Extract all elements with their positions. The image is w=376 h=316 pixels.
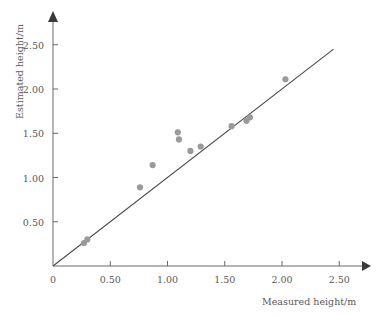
data-point — [229, 123, 235, 129]
data-point — [84, 236, 90, 242]
y-axis-arrow-icon — [48, 11, 58, 22]
plot-canvas — [0, 0, 376, 316]
x-axis-arrow-icon — [362, 261, 371, 271]
data-point — [150, 162, 156, 168]
y-axis-ticks — [53, 45, 58, 222]
y-tick-label: 1.00 — [0, 172, 44, 183]
data-point — [187, 148, 193, 154]
data-point — [247, 114, 253, 120]
reference-line — [53, 49, 334, 266]
data-point — [198, 143, 204, 149]
y-tick-label: 0.50 — [0, 216, 44, 227]
x-tick-label: 1.00 — [157, 274, 178, 285]
x-tick-label: 2.50 — [329, 274, 350, 285]
x-tick-label: 0.50 — [100, 274, 121, 285]
x-axis-ticks — [110, 261, 339, 266]
data-point — [175, 129, 181, 135]
x-tick-label: 0 — [50, 274, 56, 285]
identity-line — [53, 49, 334, 266]
y-axis-title: Estimated height/m — [14, 12, 25, 132]
scatter-plot: 00.501.001.502.002.50 0.501.001.502.002.… — [0, 0, 376, 316]
x-tick-label: 2.00 — [271, 274, 292, 285]
data-point — [282, 76, 288, 82]
x-tick-label: 1.50 — [214, 274, 235, 285]
x-axis-title: Measured height/m — [262, 296, 356, 307]
data-point — [176, 136, 182, 142]
data-point — [137, 184, 143, 190]
